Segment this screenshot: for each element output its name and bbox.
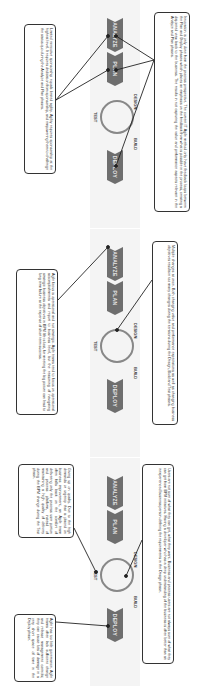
note-quality: Giving up on quality. Due to the high de… bbox=[18, 464, 74, 538]
label-test: TEST bbox=[93, 570, 98, 580]
iteration-cycle bbox=[100, 329, 134, 363]
stage-plan: PLAN bbox=[107, 52, 123, 86]
stage-plan: PLAN bbox=[107, 510, 123, 544]
stage-deploy: DEPLOY bbox=[107, 150, 123, 184]
flow-strip: ANALYZE PLAN DESIGN BUILD TEST DEPLOY bbox=[90, 0, 140, 228]
stage-analyze: ANALYZE bbox=[107, 18, 123, 52]
note-innovation: Innovation is only done from the process… bbox=[154, 12, 190, 212]
note-operational-focus: Agile focus is operational and not strat… bbox=[16, 269, 58, 415]
note-multiple-changes: Multiple changes at once. Both changing … bbox=[152, 241, 178, 425]
panel-unsure-users: Users are not sure of what they can get,… bbox=[0, 458, 204, 686]
label-test: TEST bbox=[93, 112, 98, 122]
label-design: DESIGN bbox=[133, 323, 138, 338]
panel-innovation: Innovation is only done from the process… bbox=[0, 0, 204, 228]
label-build: BUILD bbox=[133, 596, 138, 608]
label-build: BUILD bbox=[133, 367, 138, 379]
stage-analyze: ANALYZE bbox=[107, 247, 123, 281]
iteration-cycle bbox=[100, 558, 134, 592]
label-build: BUILD bbox=[133, 138, 138, 150]
note-unsure-users: Users are not sure of what they can get,… bbox=[142, 464, 174, 664]
label-test: TEST bbox=[93, 341, 98, 351]
stage-deploy: DEPLOY bbox=[107, 379, 123, 413]
flow-strip: ANALYZE PLAN DESIGN BUILD TEST DEPLOY bbox=[90, 229, 140, 457]
flow-strip: ANALYZE PLAN DESIGN BUILD TEST DEPLOY bbox=[90, 458, 140, 686]
note-governance: Agile has too little governance. Agile t… bbox=[14, 614, 56, 682]
label-design: DESIGN bbox=[133, 552, 138, 567]
panel-multiple-changes: Multiple changes at once. Both changing … bbox=[0, 229, 204, 457]
stage-analyze: ANALYZE bbox=[107, 476, 123, 510]
note-sponsorship: Limited executive sponsorship equals lim… bbox=[24, 24, 56, 174]
iteration-cycle bbox=[100, 100, 134, 134]
stage-plan: PLAN bbox=[107, 281, 123, 315]
agile-bpm-diagram: Innovation is only done from the process… bbox=[0, 0, 204, 686]
label-design: DESIGN bbox=[133, 94, 138, 109]
stage-deploy: DEPLOY bbox=[107, 608, 123, 642]
